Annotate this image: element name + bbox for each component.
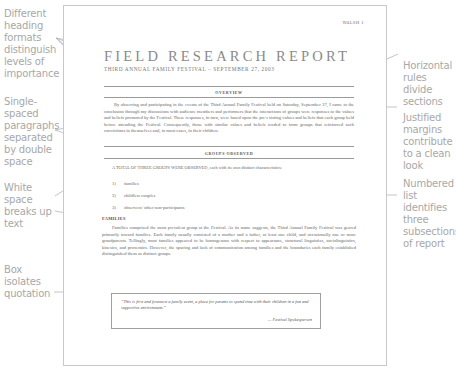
horizontal-rule [104,97,354,98]
document-page: WALSH 1 FIELD RESEARCH REPORT THIRD ANNU… [63,5,387,366]
running-head: WALSH 1 [342,20,364,25]
section-heading-overview: OVERVIEW [104,90,354,95]
list-item: 2)childless couples [112,193,155,198]
families-paragraph: Families comprised the most prevalent gr… [102,225,356,258]
callout-justified-margins: Justified margins contribute to a clean … [403,112,456,172]
horizontal-rule [104,146,354,147]
list-item: 1)families [112,181,139,186]
report-subtitle: THIRD ANNUAL FAMILY FESTIVAL – SEPTEMBER… [104,66,275,72]
quotation-attribution: — Festival Spokesperson [268,317,312,322]
quotation-text: “This is first and foremost a family eve… [121,299,313,311]
callout-white-space: White space breaks up text [4,182,60,230]
quotation-box: “This is first and foremost a family eve… [111,293,321,329]
report-title: FIELD RESEARCH REPORT [104,48,350,65]
section-heading-groups: GROUPS OBSERVED [104,151,354,156]
subheading-families: FAMILIES [102,216,126,221]
callout-box-quotation: Box isolates quotation [4,264,60,300]
list-item: 3)observers/ other non-participants [112,205,184,210]
overview-paragraph: By observing and participating in the ev… [104,102,354,135]
callout-horizontal-rules: Horizontal rules divide sections [403,60,456,108]
groups-lead-text: A TOTAL OF THREE GROUPS WERE OBSERVED, e… [112,165,352,170]
callout-single-spaced: Single-spaced paragraphs separated by do… [4,96,60,168]
callout-heading-formats: Different heading formats distinguish le… [4,8,60,80]
horizontal-rule [104,86,354,87]
callout-numbered-list: Numbered list identifies three subsectio… [403,178,456,250]
horizontal-rule [104,158,354,159]
